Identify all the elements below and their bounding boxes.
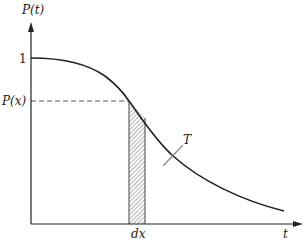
x-axis (31, 221, 303, 227)
px-label: P(x) (1, 94, 27, 108)
curve-label-t: T (183, 133, 192, 147)
y-axis-label: P(t) (21, 3, 45, 17)
y-tick-one: 1 (19, 52, 27, 66)
probability-curve (31, 58, 284, 211)
y-axis (28, 22, 34, 224)
x-axis-label: t (283, 227, 288, 241)
diagram-canvas: P(t) 1 P(x) T dx t (0, 0, 306, 242)
dx-label: dx (131, 227, 146, 241)
x-axis-arrow-icon (293, 221, 303, 227)
y-axis-arrow-icon (28, 22, 34, 32)
